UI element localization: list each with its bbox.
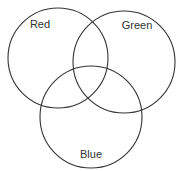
blue-set-label: Blue bbox=[80, 148, 102, 160]
red-set-circle bbox=[8, 8, 108, 108]
venn-diagram: Red Green Blue bbox=[0, 0, 178, 171]
red-set-label: Red bbox=[30, 18, 50, 30]
green-set-label: Green bbox=[122, 19, 153, 31]
